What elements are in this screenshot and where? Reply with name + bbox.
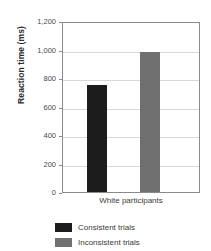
y-axis-tick-mark [59,51,62,52]
gridline [63,52,199,53]
y-axis-tick-label: 1,000 [16,46,56,55]
legend-swatch-consistent-icon [55,223,72,232]
y-axis-tick-label: 800 [16,74,56,83]
y-axis-tick-mark [59,79,62,80]
bar-inconsistent [140,52,160,192]
x-axis-category-label: White participants [62,196,200,205]
y-axis-tick-label: 1,200 [16,17,56,26]
legend-item-inconsistent: Inconsistent trials [55,236,140,249]
y-axis-tick-mark [59,108,62,109]
gridline [63,80,199,81]
gridline [63,137,199,138]
legend-label-inconsistent: Inconsistent trials [78,238,140,247]
y-axis-tick-mark [59,136,62,137]
gridline [63,166,199,167]
legend-item-consistent: Consistent trials [55,221,140,234]
legend: Consistent trials Inconsistent trials [55,221,140,251]
y-axis-tick-label: 0 [16,188,56,197]
y-axis-tick-label: 600 [16,103,56,112]
y-axis-tick-mark [59,193,62,194]
plot-area [62,22,200,193]
y-axis-tick-label: 200 [16,160,56,169]
legend-swatch-inconsistent-icon [55,238,72,247]
y-axis-tick-label: 400 [16,131,56,140]
y-axis-tick-mark [59,22,62,23]
y-axis-tick-mark [59,165,62,166]
legend-label-consistent: Consistent trials [78,223,135,232]
gridline [63,109,199,110]
bar-chart-figure: Reaction time (ms) 1,2001,00080060040020… [0,0,211,251]
bar-consistent [87,85,107,192]
